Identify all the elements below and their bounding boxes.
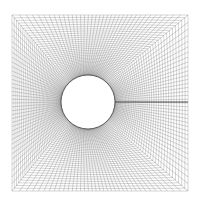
cylinder-body xyxy=(61,75,115,129)
o-grid-mesh xyxy=(0,0,200,203)
